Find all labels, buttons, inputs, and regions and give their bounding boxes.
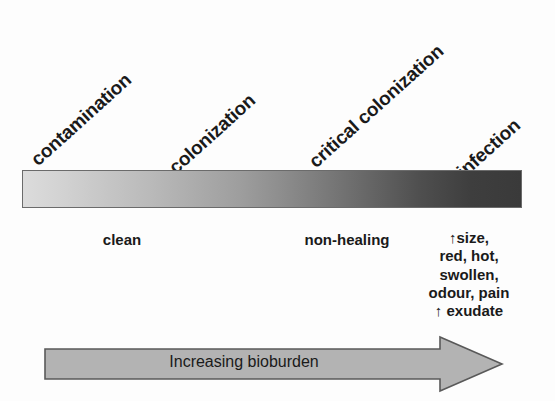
infection-sign-item: odour, pain: [429, 284, 510, 302]
stage-label-colonization: colonization: [165, 90, 258, 177]
increasing-bioburden-label: Increasing bioburden: [44, 353, 444, 371]
infection-signs-list: ↑size, red, hot, swollen, odour, pain ↑ …: [429, 229, 510, 320]
bioburden-gradient-bar: [22, 170, 522, 208]
infection-sign-item: swollen,: [429, 266, 510, 284]
infection-sign-item: ↑ exudate: [429, 302, 510, 320]
descriptor-non-healing: non-healing: [305, 231, 390, 248]
stage-label-contamination: contamination: [27, 70, 134, 169]
stage-label-critical-colonization: critical colonization: [305, 41, 446, 171]
infection-sign-item: red, hot,: [429, 247, 510, 265]
descriptor-clean: clean: [103, 231, 141, 248]
infection-sign-item: ↑size,: [429, 229, 510, 247]
bioburden-continuum-figure: contamination colonization critical colo…: [0, 0, 555, 401]
